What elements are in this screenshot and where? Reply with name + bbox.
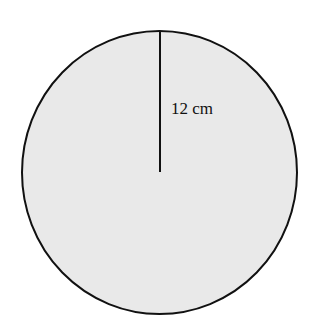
radius-label: 12 cm (171, 99, 213, 118)
circle-diagram: 12 cm (0, 0, 321, 327)
